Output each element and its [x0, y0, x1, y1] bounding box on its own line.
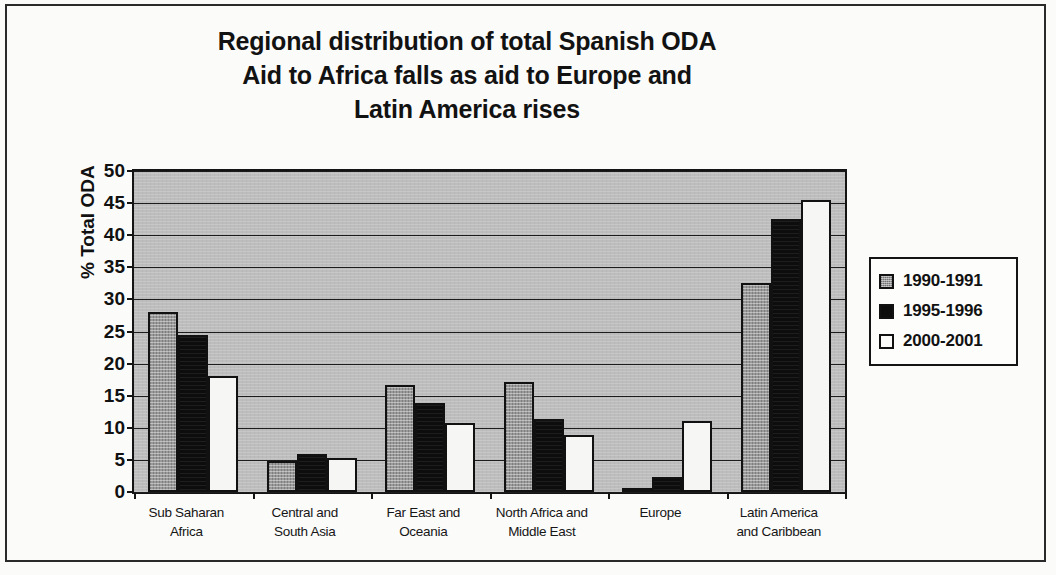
bar	[267, 461, 297, 492]
y-axis-tick-mark	[127, 266, 134, 268]
bar-group	[134, 312, 253, 492]
x-axis-category-label-line: Middle East	[483, 522, 602, 541]
chart-title-line-3: Latin America rises	[67, 92, 867, 126]
y-axis-tick-mark	[127, 170, 134, 172]
x-axis-category-label-line: Far East and	[364, 503, 483, 522]
x-axis-tick-mark	[727, 492, 729, 499]
y-axis-tick-label: 5	[114, 449, 125, 471]
bar	[801, 200, 831, 492]
y-axis-tick-label: 20	[104, 353, 125, 375]
hatched-gray-swatch-icon	[879, 274, 894, 289]
legend-item: 1990-1991	[879, 266, 1008, 296]
bar-group	[371, 385, 490, 492]
x-axis-category-label-line: North Africa and	[483, 503, 602, 522]
bar	[415, 403, 445, 492]
chart-title: Regional distribution of total Spanish O…	[67, 24, 867, 126]
legend-item-label: 1995-1996	[903, 301, 983, 321]
bar	[682, 421, 712, 492]
y-axis-tick-mark	[127, 234, 134, 236]
x-axis-category-label-line: Oceania	[364, 522, 483, 541]
legend-item: 2000-2001	[879, 326, 1008, 356]
bar	[741, 283, 771, 492]
bar	[534, 419, 564, 492]
y-axis-tick-label: 45	[104, 192, 125, 214]
x-axis-category-label-line: and Caribbean	[720, 522, 839, 541]
y-axis-tick-mark	[127, 363, 134, 365]
y-axis-tick-mark	[127, 202, 134, 204]
y-axis-tick-label: 25	[104, 321, 125, 343]
bar	[208, 376, 238, 492]
y-axis-tick-label: 50	[104, 160, 125, 182]
x-axis-category-label-line: Latin America	[720, 503, 839, 522]
plot-area: 05101520253035404550 % Total ODA	[132, 169, 847, 494]
x-axis-category-label: North Africa andMiddle East	[483, 503, 602, 541]
bar	[297, 454, 327, 492]
bar	[385, 385, 415, 492]
bar	[445, 423, 475, 492]
x-axis-category-label: Sub SaharanAfrica	[127, 503, 246, 541]
y-axis-tick-mark	[127, 331, 134, 333]
y-axis-tick-label: 30	[104, 288, 125, 310]
bar-group	[490, 382, 609, 492]
bar-group	[727, 200, 846, 492]
x-axis-category-label-line: South Asia	[246, 522, 365, 541]
y-axis-tick-label: 0	[114, 481, 125, 503]
legend-item-label: 2000-2001	[903, 331, 983, 351]
x-axis-tick-mark	[490, 492, 492, 499]
y-axis-tick-mark	[127, 491, 134, 493]
bar	[622, 488, 652, 492]
x-axis-category-label-line: Africa	[127, 522, 246, 541]
y-axis-tick-label: 40	[104, 224, 125, 246]
x-axis-category-label-line: Central and	[246, 503, 365, 522]
x-axis-tick-mark	[845, 492, 847, 499]
bar	[327, 458, 357, 492]
y-axis-tick-label: 10	[104, 417, 125, 439]
bar	[564, 435, 594, 492]
y-axis-tick-label: 35	[104, 256, 125, 278]
y-axis-tick-mark	[127, 459, 134, 461]
white-swatch-icon	[879, 334, 894, 349]
bar	[148, 312, 178, 492]
bar-group	[608, 421, 727, 492]
bar	[771, 219, 801, 492]
y-axis-title: % Total ODA	[77, 165, 99, 279]
x-axis-tick-mark	[134, 492, 136, 499]
x-axis-tick-mark	[371, 492, 373, 499]
x-axis-category-label: Latin Americaand Caribbean	[720, 503, 839, 541]
solid-black-swatch-icon	[879, 304, 894, 319]
x-axis-tick-mark	[608, 492, 610, 499]
y-axis-tick-mark	[127, 427, 134, 429]
chart-legend: 1990-1991 1995-1996 2000-2001	[869, 257, 1018, 366]
bar	[504, 382, 534, 492]
x-axis-category-label: Europe	[601, 503, 720, 522]
x-axis-tick-mark	[253, 492, 255, 499]
y-axis-tick-mark	[127, 395, 134, 397]
bar	[178, 335, 208, 492]
figure-frame: Regional distribution of total Spanish O…	[5, 4, 1046, 562]
y-axis-tick-label: 15	[104, 385, 125, 407]
bar-group	[253, 454, 372, 492]
gridline	[134, 171, 845, 172]
legend-item-label: 1990-1991	[903, 271, 983, 291]
x-axis-category-label: Far East andOceania	[364, 503, 483, 541]
x-axis-category-label-line: Sub Saharan	[127, 503, 246, 522]
chart-title-line-1: Regional distribution of total Spanish O…	[67, 24, 867, 58]
y-axis-tick-mark	[127, 298, 134, 300]
x-axis-category-label-line: Europe	[601, 503, 720, 522]
chart-title-line-2: Aid to Africa falls as aid to Europe and	[67, 58, 867, 92]
x-axis-category-label: Central andSouth Asia	[246, 503, 365, 541]
legend-item: 1995-1996	[879, 296, 1008, 326]
bar	[652, 477, 682, 492]
